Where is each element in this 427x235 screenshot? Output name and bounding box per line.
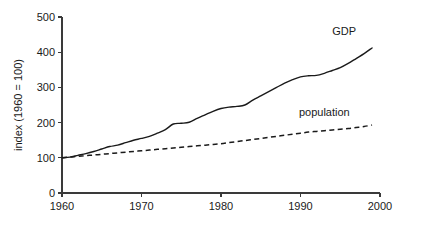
y-tick-label: 0 [49,187,55,199]
x-tick-label: 2000 [368,200,392,212]
plot-area [62,48,372,158]
line-chart: 0100200300400500 index (1960 = 100) 1960… [0,0,427,235]
y-axis: 0100200300400500 index (1960 = 100) [12,11,62,199]
y-tick-label: 500 [37,11,55,23]
gdp-label: GDP [332,25,356,37]
y-tick-label: 200 [37,117,55,129]
x-tick-label: 1980 [209,200,233,212]
x-axis-ticks: 19601970198019902000 [50,193,392,212]
y-tick-label: 300 [37,81,55,93]
y-axis-title: index (1960 = 100) [12,59,24,151]
series-line-population [62,125,372,158]
x-axis: 19601970198019902000 [50,193,392,212]
population-label: population [299,106,350,118]
x-tick-label: 1970 [129,200,153,212]
x-tick-label: 1990 [288,200,312,212]
y-tick-label: 400 [37,46,55,58]
y-axis-ticks: 0100200300400500 [37,11,62,199]
chart-figure: 0100200300400500 index (1960 = 100) 1960… [0,0,427,235]
series-line-gdp [62,48,372,158]
x-tick-label: 1960 [50,200,74,212]
y-tick-label: 100 [37,152,55,164]
